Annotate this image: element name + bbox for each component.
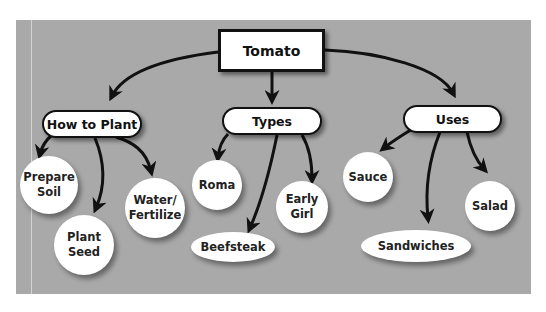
node-sandwiches: Sandwiches — [361, 230, 471, 262]
node-prepare-soil: Prepare Soil — [20, 156, 78, 214]
category-how-to-plant: How to Plant — [42, 110, 142, 138]
node-beefsteak: Beefsteak — [191, 232, 275, 262]
category-types: Types — [222, 107, 322, 135]
node-label: Roma — [199, 178, 236, 193]
node-label: Sandwiches — [378, 239, 455, 254]
node-label: Early Girl — [286, 192, 319, 222]
node-plant-seed: Plant Seed — [54, 215, 114, 275]
node-salad: Salad — [465, 181, 515, 231]
node-label: Sauce — [349, 170, 388, 185]
node-label: Water/ Fertilize — [129, 193, 182, 223]
node-roma: Roma — [192, 160, 242, 210]
node-label: Salad — [472, 199, 508, 214]
node-label: Plant Seed — [67, 230, 101, 260]
category-uses: Uses — [403, 105, 502, 133]
node-early-girl: Early Girl — [276, 181, 328, 233]
root-node-tomato: Tomato — [218, 29, 325, 72]
node-water-fertilize: Water/ Fertilize — [125, 178, 185, 238]
node-sauce: Sauce — [343, 152, 393, 202]
node-label: Beefsteak — [201, 240, 266, 255]
node-label: Prepare Soil — [23, 170, 74, 200]
